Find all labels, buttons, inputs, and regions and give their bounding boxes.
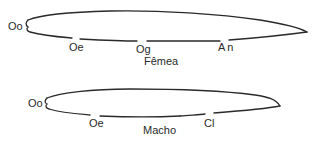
female-label-og: Og bbox=[136, 43, 151, 55]
diagram-outlines bbox=[0, 0, 317, 143]
female-body-outline bbox=[26, 11, 307, 41]
female-label-oo: Oo bbox=[8, 20, 23, 32]
male-label-cl: Cl bbox=[204, 117, 214, 129]
female-label-an: An bbox=[218, 41, 235, 53]
male-label-oe: Oe bbox=[89, 117, 104, 129]
male-body-outline bbox=[45, 89, 280, 117]
female-caption: Fêmea bbox=[144, 55, 178, 67]
male-caption: Macho bbox=[143, 124, 176, 136]
female-label-oe: Oe bbox=[69, 41, 84, 53]
male-label-oo: Oo bbox=[28, 97, 43, 109]
